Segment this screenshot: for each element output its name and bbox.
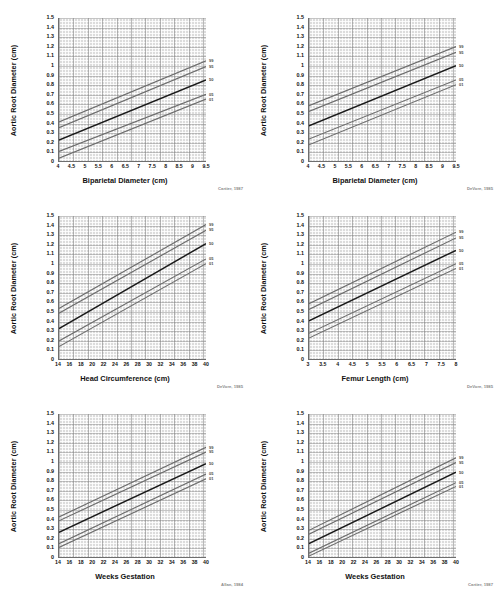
y-tick-label: 0.7	[297, 488, 305, 493]
plot-wrapper	[308, 18, 456, 162]
y-axis-label: Aortic Root Diameter (cm)	[256, 414, 272, 558]
percentile-label-group: 9995500501	[207, 18, 247, 162]
percentile-line-01	[59, 99, 206, 158]
y-tick-label: 1.4	[297, 421, 305, 426]
y-tick-label: 1.1	[297, 54, 305, 59]
x-tick-label: 18	[78, 560, 84, 565]
y-tick-group: 00.10.20.30.40.50.60.70.80.911.11.21.31.…	[272, 414, 306, 558]
y-tick-label: 0	[301, 555, 304, 560]
y-tick-group: 00.10.20.30.40.50.60.70.80.911.11.21.31.…	[272, 216, 306, 360]
y-tick-label: 0.3	[297, 526, 305, 531]
x-tick-label: 40	[203, 362, 209, 367]
y-tick-label: 0.9	[47, 271, 55, 276]
x-tick-label: 30	[146, 362, 152, 367]
y-tick-label: 0.1	[47, 546, 55, 551]
y-axis-label-text: Aortic Root Diameter (cm)	[10, 44, 19, 136]
y-tick-label: 0.5	[297, 507, 305, 512]
x-tick-label: 20	[89, 362, 95, 367]
percentile-label-50: 50	[459, 471, 463, 475]
x-tick-label: 6	[110, 164, 113, 169]
y-tick-label: 0.3	[47, 130, 55, 135]
x-axis-label: Weeks Gestation	[280, 572, 470, 581]
percentile-curves	[59, 216, 206, 359]
x-tick-label: 8	[455, 362, 458, 367]
y-tick-label: 0.7	[47, 488, 55, 493]
y-tick-label: 0.1	[47, 348, 55, 353]
x-tick-label: 24	[112, 560, 118, 565]
plot-area	[308, 18, 456, 162]
x-tick-label: 9	[191, 164, 194, 169]
y-tick-label: 1.2	[47, 44, 55, 49]
x-tick-label: 4	[307, 164, 310, 169]
y-tick-group: 00.10.20.30.40.50.60.70.80.911.11.21.31.…	[22, 216, 56, 360]
x-tick-label: 14	[55, 560, 61, 565]
x-tick-label: 7	[137, 164, 140, 169]
x-tick-label: 8.5	[425, 164, 432, 169]
plot-area	[58, 216, 206, 360]
percentile-line-50	[309, 472, 456, 544]
x-tick-label: 22	[101, 560, 107, 565]
percentile-label-95: 95	[459, 461, 463, 465]
y-tick-label: 1.2	[297, 44, 305, 49]
percentile-line-95	[309, 52, 456, 111]
x-tick-label: 4	[336, 362, 339, 367]
x-tick-label: 9.5	[452, 164, 459, 169]
percentile-line-01	[309, 486, 456, 556]
x-tick-label: 34	[169, 560, 175, 565]
percentile-label-95: 95	[209, 228, 213, 232]
y-tick-label: 0.3	[47, 526, 55, 531]
x-axis-label: Weeks Gestation	[30, 572, 220, 581]
x-tick-label: 6.5	[372, 164, 379, 169]
percentile-line-50	[309, 250, 456, 321]
x-tick-label: 14	[55, 362, 61, 367]
y-tick-label: 0.9	[297, 469, 305, 474]
y-tick-label: 1.3	[47, 430, 55, 435]
citation-text: DeVore, 1985	[467, 186, 493, 191]
y-tick-label: 0.5	[297, 111, 305, 116]
x-axis-label: Biparietal Diameter (cm)	[280, 176, 470, 185]
y-tick-group: 00.10.20.30.40.50.60.70.80.911.11.21.31.…	[22, 18, 56, 162]
y-tick-label: 0.8	[47, 478, 55, 483]
y-axis-label-text: Aortic Root Diameter (cm)	[260, 440, 269, 532]
percentile-label-99: 99	[209, 223, 213, 227]
y-tick-label: 0	[301, 159, 304, 164]
y-tick-label: 1.3	[297, 34, 305, 39]
x-tick-label: 5.5	[345, 164, 352, 169]
x-tick-label: 9	[441, 164, 444, 169]
percentile-label-50: 50	[459, 249, 463, 253]
y-tick-label: 1.1	[47, 54, 55, 59]
y-tick-label: 0.9	[47, 469, 55, 474]
chart-panel-fl-devore: Aortic Root Diameter (cm)00.10.20.30.40.…	[250, 198, 499, 396]
y-tick-label: 1.1	[47, 252, 55, 257]
percentile-line-99	[309, 232, 456, 304]
y-tick-label: 0.2	[297, 338, 305, 343]
y-tick-label: 0.4	[297, 319, 305, 324]
y-tick-label: 0.1	[47, 150, 55, 155]
y-tick-label: 1.1	[47, 450, 55, 455]
percentile-label-01: 01	[209, 98, 213, 102]
y-tick-label: 1.4	[297, 223, 305, 228]
y-tick-label: 0.7	[47, 92, 55, 97]
y-tick-label: 1	[301, 459, 304, 464]
y-tick-label: 0.2	[297, 536, 305, 541]
y-tick-label: 1.3	[297, 430, 305, 435]
y-tick-label: 0.5	[297, 309, 305, 314]
y-tick-group: 00.10.20.30.40.50.60.70.80.911.11.21.31.…	[22, 414, 56, 558]
percentile-label-99: 99	[209, 59, 213, 63]
percentile-label-95: 95	[209, 450, 213, 454]
x-tick-group: 1416182022242628303234363840	[58, 362, 206, 371]
percentile-label-99: 99	[459, 230, 463, 234]
y-tick-label: 0.4	[47, 319, 55, 324]
y-tick-label: 0.3	[47, 328, 55, 333]
x-tick-label: 28	[135, 362, 141, 367]
percentile-line-99	[59, 447, 206, 517]
x-tick-label: 7	[387, 164, 390, 169]
y-tick-label: 1	[301, 63, 304, 68]
plot-wrapper	[58, 414, 206, 558]
y-axis-label-text: Aortic Root Diameter (cm)	[10, 242, 19, 334]
percentile-line-50	[59, 80, 206, 140]
x-tick-label: 4.5	[349, 362, 356, 367]
x-tick-label: 32	[158, 362, 164, 367]
x-tick-label: 7	[425, 362, 428, 367]
y-tick-label: 0.2	[47, 140, 55, 145]
